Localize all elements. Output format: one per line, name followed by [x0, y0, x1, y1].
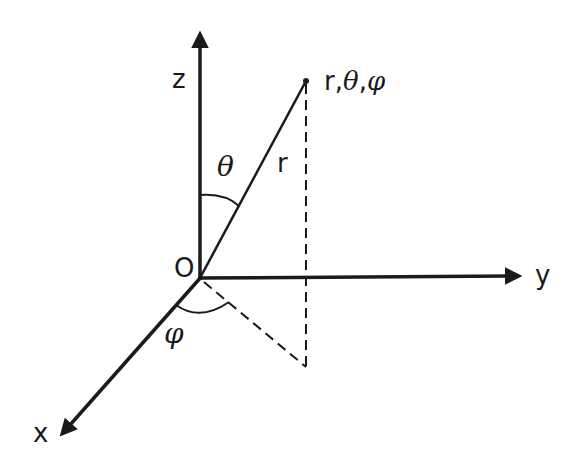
- radius-label: r: [277, 148, 288, 178]
- theta-arc: [200, 195, 239, 206]
- y-axis: [198, 276, 519, 278]
- z-axis-label: z: [172, 64, 186, 94]
- point-phi: φ: [367, 66, 386, 96]
- radius-line: [200, 81, 306, 278]
- x-axis: [62, 276, 202, 434]
- spherical-coordinates-diagram: z y x O r θ φ r,θ,φ: [0, 0, 581, 467]
- xy-projection-dashed: [204, 282, 306, 367]
- phi-label: φ: [164, 317, 184, 350]
- phi-arc: [176, 302, 229, 313]
- y-axis-label: y: [535, 260, 550, 290]
- point-comma: ,: [359, 66, 367, 96]
- x-axis-label: x: [33, 418, 48, 448]
- point-theta: θ: [343, 66, 359, 96]
- origin-label: O: [174, 253, 194, 283]
- point-coordinates-label: r,θ,φ: [324, 66, 386, 96]
- point-marker: [303, 78, 309, 84]
- theta-label: θ: [217, 150, 234, 183]
- point-r: r,: [324, 66, 343, 96]
